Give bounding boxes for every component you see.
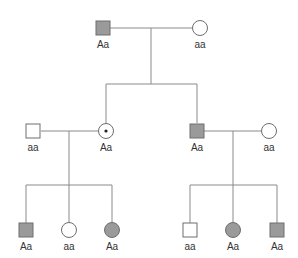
female-circle-symbol xyxy=(226,223,241,238)
individual-II-3: Aa xyxy=(190,124,204,153)
individual-II-2: Aa xyxy=(99,124,114,154)
male-square-symbol xyxy=(96,21,110,35)
genotype-label: aa xyxy=(194,39,206,50)
genotype-label: aa xyxy=(263,142,275,153)
genotype-label: aa xyxy=(184,241,196,252)
genotype-label: Aa xyxy=(20,241,33,252)
genotype-label: aa xyxy=(63,241,75,252)
individual-III-4: aa xyxy=(183,223,197,252)
carrier-dot-icon xyxy=(104,129,107,132)
individual-II-1: aa xyxy=(26,124,40,153)
individual-III-6: Aa xyxy=(270,223,284,252)
male-square-symbol xyxy=(270,223,284,237)
male-square-symbol xyxy=(19,223,33,237)
male-square-symbol xyxy=(26,124,40,138)
individual-I-1: Aa xyxy=(96,21,110,50)
genotype-label: aa xyxy=(27,142,39,153)
individual-III-1: Aa xyxy=(19,223,33,252)
individual-III-3: Aa xyxy=(105,223,120,253)
genotype-label: Aa xyxy=(100,142,113,153)
female-circle-symbol xyxy=(62,223,77,238)
genotype-label: Aa xyxy=(271,241,284,252)
genotype-label: Aa xyxy=(106,241,119,252)
individual-III-2: aa xyxy=(62,223,77,253)
individual-III-5: Aa xyxy=(226,223,241,253)
individual-II-4: aa xyxy=(262,124,277,154)
female-circle-symbol xyxy=(262,124,277,139)
individual-I-2: aa xyxy=(193,21,208,51)
female-circle-symbol xyxy=(105,223,120,238)
genotype-label: Aa xyxy=(191,142,204,153)
genotype-label: Aa xyxy=(97,39,110,50)
pedigree-diagram: AaaaaaAaAaaaAaaaAaaaAaAa xyxy=(0,0,298,258)
male-square-symbol xyxy=(183,223,197,237)
female-circle-symbol xyxy=(193,21,208,36)
genotype-label: Aa xyxy=(227,241,240,252)
male-square-symbol xyxy=(190,124,204,138)
connector-lines xyxy=(26,28,277,223)
